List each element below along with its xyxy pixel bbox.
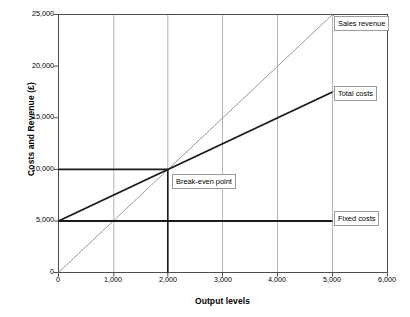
callout-total-costs: Total costs [334, 86, 377, 101]
callout-sales-revenue: Sales revenue [334, 16, 389, 31]
plot-area [0, 0, 410, 317]
series-line-sales-revenue [59, 15, 333, 273]
x-axis-ticks [59, 273, 388, 277]
break-even-chart: Costs and Revenue (£) 25,000 20,000 15,0… [0, 0, 410, 317]
callout-fixed-costs: Fixed costs [334, 211, 379, 226]
series-line-total-costs [59, 92, 333, 221]
y-axis-ticks [54, 15, 58, 273]
callout-break-even-point: Break-even point [172, 174, 236, 189]
